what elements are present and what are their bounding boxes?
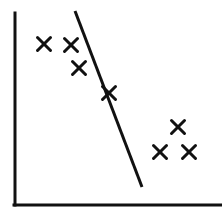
- data-point-marker: [38, 38, 51, 51]
- data-point-marker: [172, 121, 185, 134]
- data-point-group: [38, 38, 196, 159]
- trend-line: [75, 11, 142, 187]
- trend-line-group: [75, 11, 142, 187]
- data-point-marker: [154, 146, 167, 159]
- plot-canvas: [0, 0, 222, 212]
- data-point-marker: [73, 62, 86, 75]
- scatter-plot-figure: [0, 0, 222, 212]
- data-point-marker: [183, 146, 196, 159]
- data-point-marker: [65, 39, 78, 52]
